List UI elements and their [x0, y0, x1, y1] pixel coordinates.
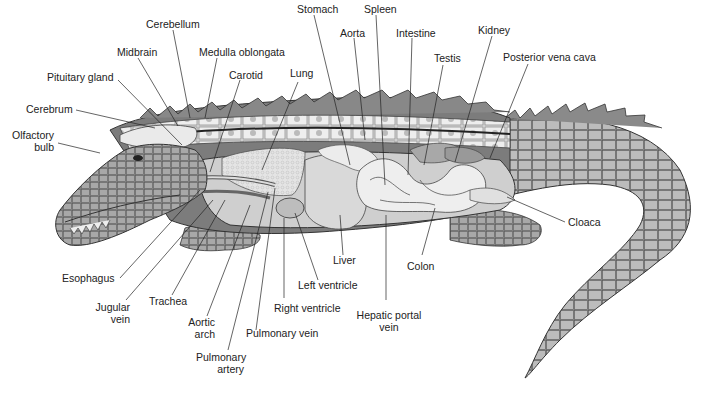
label-posterior-vena-cava: Posterior vena cava — [503, 51, 596, 63]
label-lung: Lung — [290, 67, 313, 79]
label-pulmonary-artery: Pulmonary artery — [196, 351, 244, 375]
label-aorta: Aorta — [340, 27, 365, 39]
label-pituitary-gland: Pituitary gland — [47, 71, 114, 83]
label-left-ventricle: Left ventricle — [298, 279, 358, 291]
label-colon: Colon — [407, 260, 434, 272]
label-cerebellum: Cerebellum — [146, 18, 200, 30]
label-intestine: Intestine — [396, 27, 436, 39]
eye — [133, 155, 143, 161]
label-midbrain: Midbrain — [117, 46, 157, 58]
label-trachea: Trachea — [149, 295, 187, 307]
label-carotid: Carotid — [229, 69, 263, 81]
label-kidney: Kidney — [478, 24, 510, 36]
label-right-ventricle: Right ventricle — [274, 302, 341, 314]
label-liver: Liver — [333, 254, 356, 266]
label-medulla-oblongata: Medulla oblongata — [199, 46, 285, 58]
heart — [276, 198, 304, 218]
label-aortic-arch: Aortic arch — [175, 316, 215, 340]
label-stomach: Stomach — [297, 3, 338, 15]
label-olfactory-bulb: Olfactory bulb — [10, 129, 54, 153]
label-hepatic-portal-vein: Hepatic portal vein — [352, 309, 426, 333]
label-jugular-vein: Jugular vein — [86, 301, 130, 325]
label-cloaca: Cloaca — [568, 216, 601, 228]
label-spleen: Spleen — [364, 3, 397, 15]
label-testis: Testis — [434, 52, 461, 64]
anatomy-diagram: Cerebellum Midbrain Medulla oblongata Pi… — [0, 0, 703, 396]
crocodile-illustration — [0, 0, 703, 396]
label-pulmonary-vein: Pulmonary vein — [246, 327, 318, 339]
label-cerebrum: Cerebrum — [26, 103, 73, 115]
label-esophagus: Esophagus — [62, 272, 115, 284]
